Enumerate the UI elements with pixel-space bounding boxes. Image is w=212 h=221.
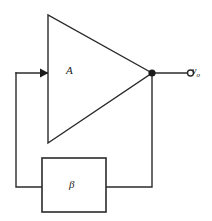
feedback-amplifier-diagram: A β vo [0, 0, 212, 221]
diagram-canvas [0, 0, 212, 221]
amplifier-triangle [48, 15, 152, 143]
output-voltage-label: vo [192, 66, 200, 79]
feedback-block-label: β [69, 179, 74, 190]
output-junction-dot [148, 69, 155, 76]
output-voltage-subscript: o [196, 71, 200, 79]
input-arrow-icon [40, 69, 49, 78]
feedback-return-wire-left [16, 73, 42, 187]
amplifier-gain-label: A [66, 65, 73, 76]
